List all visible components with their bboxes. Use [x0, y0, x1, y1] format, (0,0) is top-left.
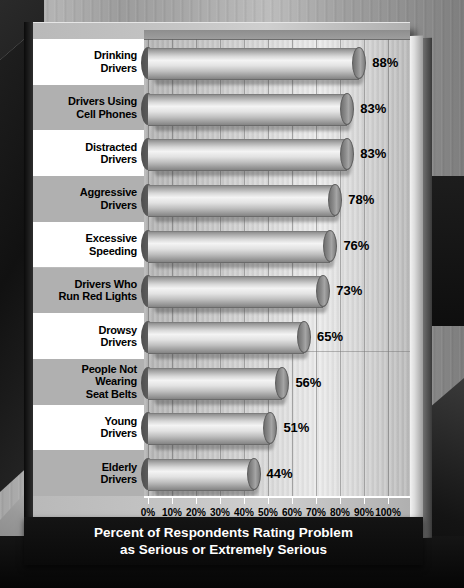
bar-value-label: 56% [295, 368, 321, 398]
x-axis-tick [220, 498, 221, 504]
bar-value-label: 78% [348, 185, 374, 215]
category-label-text: Drivers WhoRun Red Lights [59, 278, 137, 303]
category-label-6: Drivers WhoRun Red Lights [33, 268, 144, 314]
bar-6: 73% [148, 276, 323, 306]
bar-body [148, 231, 330, 263]
chart-title-line-2: as Serious or Extremely Serious [120, 541, 327, 558]
bar-10: 44% [148, 459, 254, 489]
x-axis-tick [172, 498, 173, 504]
bar-9: 51% [148, 413, 270, 443]
category-label-9: YoungDrivers [33, 405, 144, 451]
bar-end-cap [275, 367, 289, 399]
category-label-1: DrinkingDrivers [33, 39, 144, 85]
bar-value-label: 73% [336, 276, 362, 306]
category-label-text: DrinkingDrivers [94, 49, 137, 74]
x-axis-tick [268, 498, 269, 504]
bar-5: 76% [148, 231, 330, 261]
bar-end-cap [247, 458, 261, 490]
page-edge [410, 36, 423, 536]
bar-value-label: 44% [267, 459, 293, 489]
bar-body [148, 276, 323, 308]
bar-end-cap [316, 275, 330, 307]
bar-2: 83% [148, 94, 347, 124]
plot-top-depth-band [144, 30, 410, 40]
x-axis-tick [340, 498, 341, 504]
x-axis-tick [196, 498, 197, 504]
bar-7: 65% [148, 322, 304, 352]
bar-body [148, 185, 335, 217]
bar-end-cap [323, 230, 337, 262]
page-edge-shadow [423, 38, 432, 538]
bar-value-label: 65% [317, 322, 343, 352]
category-label-10: ElderlyDrivers [33, 450, 144, 496]
x-axis-line [144, 496, 410, 498]
bar-1: 88% [148, 48, 359, 78]
bar-8: 56% [148, 368, 282, 398]
bar-4: 78% [148, 185, 335, 215]
category-label-5: ExcessiveSpeeding [33, 222, 144, 268]
category-label-text: ElderlyDrivers [100, 461, 137, 486]
category-label-8: People NotWearingSeat Belts [33, 359, 144, 405]
bar-value-label: 76% [343, 231, 369, 261]
x-axis-tick [364, 498, 365, 504]
bar-body [148, 48, 359, 80]
x-axis-tick [316, 498, 317, 504]
x-axis-tick [148, 498, 149, 504]
chart-card: DrinkingDriversDrivers UsingCell PhonesD… [24, 22, 410, 542]
category-label-2: Drivers UsingCell Phones [33, 85, 144, 131]
gridline-vertical [388, 39, 389, 496]
x-axis-tick [388, 498, 389, 504]
bar-value-label: 88% [372, 48, 398, 78]
category-label-text: DistractedDrivers [85, 141, 137, 166]
bar-end-cap [340, 93, 354, 125]
bar-body [148, 322, 304, 354]
category-label-text: YoungDrivers [100, 415, 137, 440]
x-axis-tick [292, 498, 293, 504]
bar-end-cap [263, 412, 277, 444]
chart-title: Percent of Respondents Rating Problem as… [24, 517, 423, 565]
plot-area: 88%83%83%78%76%73%65%56%51%44% [144, 30, 410, 496]
bar-value-label: 83% [360, 94, 386, 124]
bar-body [148, 94, 347, 126]
bar-end-cap [297, 321, 311, 353]
category-label-text: AggressiveDrivers [80, 186, 137, 211]
category-label-7: DrowsyDrivers [33, 313, 144, 359]
card-spine [24, 22, 33, 542]
category-label-text: People NotWearingSeat Belts [82, 363, 137, 401]
bar-body [148, 368, 282, 400]
bar-body [148, 413, 270, 445]
bar-value-label: 83% [360, 139, 386, 169]
x-axis-tick [244, 498, 245, 504]
category-label-4: AggressiveDrivers [33, 176, 144, 222]
bar-body [148, 139, 347, 171]
chart-title-line-1: Percent of Respondents Rating Problem [94, 524, 353, 541]
bar-3: 83% [148, 139, 347, 169]
bar-end-cap [340, 138, 354, 170]
category-label-text: ExcessiveSpeeding [86, 232, 137, 257]
category-label-text: Drivers UsingCell Phones [68, 95, 137, 120]
category-label-text: DrowsyDrivers [98, 324, 137, 349]
bar-body [148, 459, 254, 491]
category-label-column: DrinkingDriversDrivers UsingCell PhonesD… [33, 30, 144, 496]
bar-value-label: 51% [283, 413, 309, 443]
category-label-3: DistractedDrivers [33, 130, 144, 176]
